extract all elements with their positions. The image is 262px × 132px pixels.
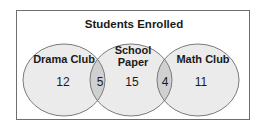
- drama-only-count: 12: [56, 75, 70, 89]
- math-only-count: 11: [195, 75, 208, 89]
- drama-school-count: 5: [97, 75, 104, 89]
- diagram-title: Students Enrolled: [85, 18, 183, 30]
- math-club-label: Math Club: [176, 53, 229, 65]
- venn-diagram: Students Enrolled Drama Club School Pape…: [0, 0, 262, 132]
- school-only-count: 15: [125, 75, 139, 89]
- school-paper-label-line2: Paper: [118, 56, 149, 68]
- school-math-count: 4: [162, 75, 169, 89]
- drama-club-label: Drama Club: [33, 53, 95, 65]
- school-paper-label-line1: School: [115, 44, 152, 56]
